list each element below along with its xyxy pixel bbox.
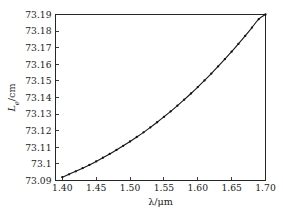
- chart-figure: 1.401.451.501.551.601.651.7073.0973.173.…: [0, 0, 283, 218]
- y-tick-label: 73.14: [25, 92, 51, 103]
- data-point-marker: [258, 18, 260, 20]
- data-point-marker: [81, 167, 83, 169]
- y-tick-label: 73.17: [25, 42, 51, 53]
- data-point-marker: [210, 72, 212, 74]
- data-point-marker: [183, 99, 185, 101]
- data-point-marker: [88, 164, 90, 166]
- y-axis-title-text: Le/cm: [6, 83, 21, 112]
- data-point-marker: [251, 26, 253, 28]
- data-point-marker: [149, 126, 151, 128]
- data-point-marker: [224, 58, 226, 60]
- tick-marks-group: [56, 15, 266, 181]
- x-tick-label: 1.40: [52, 182, 73, 193]
- data-point-marker: [95, 160, 97, 162]
- x-tick-label: 1.45: [86, 182, 107, 193]
- plot-frame: [56, 15, 266, 181]
- line-chart: 1.401.451.501.551.601.651.7073.0973.173.…: [0, 0, 283, 218]
- data-curve: [62, 15, 265, 178]
- data-markers-group: [61, 13, 267, 178]
- data-point-marker: [197, 86, 199, 88]
- y-tick-label: 73.09: [25, 175, 51, 186]
- data-point-marker: [75, 170, 77, 172]
- y-tick-label: 73.13: [25, 108, 51, 119]
- data-point-marker: [136, 136, 138, 138]
- data-point-marker: [237, 43, 239, 45]
- x-axis-title: λ/μm: [148, 196, 173, 207]
- y-tick-label: 73.16: [25, 59, 51, 70]
- data-point-marker: [163, 116, 165, 118]
- data-point-marker: [244, 35, 246, 37]
- data-point-marker: [61, 176, 63, 178]
- y-axis-title: Le/cm: [6, 83, 21, 112]
- y-tick-label: 73.15: [25, 75, 51, 86]
- y-tick-label: 73.19: [25, 9, 51, 20]
- tick-labels-group: 1.401.451.501.551.601.651.7073.0973.173.…: [25, 9, 276, 193]
- y-tick-label: 73.18: [25, 25, 51, 36]
- data-point-marker: [176, 104, 178, 106]
- x-tick-label: 1.70: [255, 182, 276, 193]
- data-point-marker: [170, 110, 172, 112]
- data-point-marker: [217, 65, 219, 67]
- data-point-marker: [115, 149, 117, 151]
- data-point-marker: [102, 157, 104, 159]
- x-tick-label: 1.50: [120, 182, 141, 193]
- data-point-marker: [264, 13, 266, 15]
- data-point-marker: [156, 121, 158, 123]
- y-tick-label: 73.11: [25, 142, 51, 153]
- y-tick-label: 73.1: [31, 158, 51, 169]
- data-point-marker: [109, 153, 111, 155]
- data-point-marker: [122, 145, 124, 147]
- y-tick-label: 73.12: [25, 125, 51, 136]
- data-point-marker: [203, 79, 205, 81]
- data-point-marker: [230, 51, 232, 53]
- data-point-marker: [142, 131, 144, 133]
- data-point-marker: [68, 173, 70, 175]
- data-point-marker: [129, 140, 131, 142]
- x-tick-label: 1.60: [188, 182, 209, 193]
- x-tick-label: 1.65: [221, 182, 242, 193]
- x-tick-label: 1.55: [154, 182, 175, 193]
- data-point-marker: [190, 92, 192, 94]
